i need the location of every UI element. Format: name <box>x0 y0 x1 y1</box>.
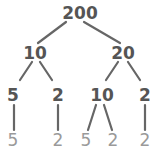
tree-edge <box>20 62 32 80</box>
tree-node: 10 <box>90 87 114 104</box>
tree-node: 5 <box>7 87 19 104</box>
tree-edge <box>40 62 52 80</box>
tree-edge <box>128 62 140 80</box>
tree-node: 2 <box>52 87 64 104</box>
tree-edge <box>88 105 96 130</box>
prime-leaf-node: 5 <box>8 132 19 149</box>
prime-leaf-node: 2 <box>140 132 151 149</box>
tree-edge <box>38 22 66 43</box>
tree-node: 20 <box>111 45 135 62</box>
tree-node: 200 <box>62 5 98 22</box>
prime-leaf-node: 2 <box>53 132 64 149</box>
prime-leaf-node: 5 <box>81 132 92 149</box>
tree-edge <box>106 62 118 80</box>
tree-edge <box>84 22 120 43</box>
factor-tree-diagram: 20010205210252522 <box>0 0 160 154</box>
prime-leaf-node: 2 <box>108 132 119 149</box>
tree-edge <box>104 105 112 130</box>
tree-node: 10 <box>23 45 47 62</box>
tree-node: 2 <box>139 87 151 104</box>
